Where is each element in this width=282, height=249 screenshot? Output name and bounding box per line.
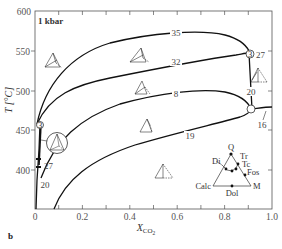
phase-point-fos	[244, 174, 247, 177]
phase-point-mid	[231, 170, 234, 173]
phase-point-q	[229, 152, 232, 155]
curve-labels: 35 32 8 19 20 27 27 20 16	[40, 28, 267, 190]
label-20-right: 20	[247, 87, 257, 97]
invariant-point-right-lower	[247, 105, 255, 113]
label-27-left: 27	[44, 161, 54, 171]
ternary-label-q: Q	[228, 142, 234, 152]
x-tick-0.2: 0.2	[76, 212, 88, 222]
x-tick-0: 0	[33, 212, 38, 222]
plot-frame	[35, 11, 272, 209]
x-tick-0.6: 0.6	[171, 212, 183, 222]
label-32: 32	[172, 57, 181, 67]
label-16: 16	[258, 120, 268, 130]
bottom-ticks	[59, 205, 249, 209]
invariant-label-right: 3	[248, 49, 252, 59]
y-tick-550: 550	[16, 47, 31, 57]
label-35: 35	[172, 28, 182, 38]
magnified-circle-inset	[41, 133, 68, 154]
y-tick-500: 500	[16, 87, 31, 97]
x-axis-label: XCO2	[136, 222, 156, 236]
curve-20-left	[36, 165, 38, 209]
y-axis-label: T [°C]	[3, 87, 14, 113]
triangle-icon-6	[251, 68, 267, 82]
left-ticks	[31, 51, 35, 170]
phase-point-dol	[231, 185, 234, 188]
curve-35	[37, 32, 249, 124]
label-27-right: 27	[256, 50, 266, 60]
triangle-icon-3	[135, 81, 150, 94]
label-19: 19	[186, 131, 196, 141]
right-ticks	[268, 51, 272, 170]
pressure-annotation: 1 kbar	[38, 16, 63, 26]
phase-point-tr	[237, 163, 240, 166]
y-tick-400: 400	[16, 166, 31, 176]
x-tick-0.8: 0.8	[219, 212, 231, 222]
y-tick-450: 450	[16, 126, 31, 136]
ternary-legend: Q Di Tr Tc Fos Calc M Dol	[195, 142, 261, 198]
triangle-icon-2	[130, 48, 149, 62]
panel-label: b	[8, 231, 13, 241]
x-tick-1.0: 1.0	[266, 212, 278, 222]
triangle-icon-5	[155, 164, 173, 178]
curve-19	[54, 109, 252, 209]
x-tick-0.4: 0.4	[124, 212, 136, 222]
y-tick-600: 600	[17, 7, 32, 17]
top-ticks	[59, 11, 249, 15]
ternary-label-di: Di	[212, 156, 221, 166]
ternary-label-fos: Fos	[247, 167, 259, 177]
ternary-label-calc: Calc	[195, 181, 211, 191]
phase-point-tc	[235, 168, 238, 171]
ternary-label-dol: Dol	[226, 188, 239, 198]
triangle-icon-4	[140, 119, 152, 132]
label-20-left: 20	[41, 180, 51, 190]
phase-point-di	[225, 168, 228, 171]
ternary-label-m: M	[253, 181, 261, 191]
phase-diagram-figure: 600 550 500 450 400 0 0.2 0.4 0.6 0.8 1.…	[0, 0, 282, 249]
triangle-icon-1	[45, 53, 62, 68]
invariant-label-left: 3	[38, 120, 42, 130]
label-8: 8	[174, 89, 179, 99]
